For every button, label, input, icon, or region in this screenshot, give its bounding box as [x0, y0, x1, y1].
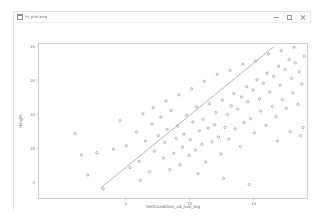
data-point — [208, 103, 210, 105]
data-point — [190, 88, 192, 90]
data-point — [175, 137, 177, 139]
data-point — [153, 150, 155, 152]
data-point — [228, 138, 230, 140]
data-point — [233, 92, 235, 94]
regression-line — [101, 47, 274, 188]
data-point — [139, 179, 141, 181]
data-point — [188, 154, 190, 156]
data-point — [266, 72, 268, 74]
data-point — [162, 157, 164, 159]
data-point — [142, 113, 144, 115]
y-axis-ticks: 510152025 — [30, 44, 38, 185]
minimize-icon — [274, 17, 279, 18]
data-point — [297, 103, 299, 105]
data-point — [205, 161, 207, 163]
data-point — [299, 134, 301, 136]
data-point — [246, 86, 248, 88]
data-point — [185, 114, 187, 116]
data-point — [112, 148, 114, 150]
data-point — [256, 79, 258, 81]
data-point — [183, 133, 185, 135]
data-point — [226, 113, 228, 115]
close-button[interactable] — [296, 12, 309, 22]
y-tick-label: 15 — [30, 112, 35, 117]
data-point — [302, 126, 304, 128]
maximize-icon — [287, 15, 292, 20]
data-point — [211, 141, 213, 143]
data-point — [172, 152, 174, 154]
data-point — [221, 99, 223, 101]
data-point — [243, 122, 245, 124]
data-point — [166, 128, 168, 130]
data-point — [74, 132, 76, 134]
data-point — [272, 75, 274, 77]
data-point — [164, 141, 166, 143]
y-tick-label: 20 — [30, 78, 35, 83]
data-point — [292, 92, 294, 94]
data-point — [129, 166, 131, 168]
scatter-plot: 510152025 51015 testCondition_vd_non_log… — [14, 23, 312, 210]
data-point — [253, 132, 255, 134]
data-point — [160, 116, 162, 118]
data-point — [198, 130, 200, 132]
data-point — [293, 46, 295, 48]
data-point — [289, 130, 291, 132]
data-point — [207, 127, 209, 129]
window-title-bar[interactable]: fit_plot.png — [14, 12, 310, 23]
data-point — [303, 55, 305, 57]
data-point — [237, 108, 239, 110]
data-point — [279, 84, 281, 86]
data-point — [258, 98, 260, 100]
data-point — [215, 111, 217, 113]
plot-window: fit_plot.png 510152025 51015 testConditi… — [13, 11, 311, 210]
data-point — [157, 134, 159, 136]
data-point — [181, 146, 183, 148]
data-point — [197, 173, 199, 175]
data-point — [178, 94, 180, 96]
data-point — [144, 140, 146, 142]
data-point — [240, 96, 242, 98]
data-point — [179, 164, 181, 166]
y-tick-label: 25 — [30, 44, 35, 49]
data-point — [216, 73, 218, 75]
data-point — [125, 145, 127, 147]
data-point — [135, 131, 137, 133]
data-point — [87, 174, 89, 176]
data-point — [96, 151, 98, 153]
y-tick-label: 10 — [30, 146, 35, 151]
data-point — [276, 140, 278, 142]
data-point — [196, 106, 198, 108]
data-point — [201, 143, 203, 145]
data-point — [288, 58, 290, 60]
window-title: fit_plot.png — [25, 15, 47, 20]
data-point — [169, 168, 171, 170]
data-point — [267, 53, 269, 55]
data-point — [281, 98, 283, 100]
data-point — [102, 187, 104, 189]
data-point — [189, 139, 191, 141]
data-point — [80, 154, 82, 156]
minimize-button[interactable] — [270, 12, 283, 22]
data-point — [229, 69, 231, 71]
data-point — [248, 183, 250, 185]
window-controls — [270, 12, 310, 22]
data-point — [301, 83, 303, 85]
data-point — [298, 71, 300, 73]
data-point — [224, 126, 226, 128]
y-tick-label: 5 — [33, 180, 36, 185]
data-point — [222, 177, 224, 179]
data-point — [260, 110, 262, 112]
data-point — [269, 91, 271, 93]
data-point — [230, 105, 232, 107]
data-point — [285, 107, 287, 109]
data-point — [280, 49, 282, 51]
data-point — [252, 89, 254, 91]
data-point — [239, 145, 241, 147]
x-tick-label: 15 — [251, 201, 256, 206]
data-point — [262, 82, 264, 84]
maximize-button[interactable] — [283, 12, 296, 22]
data-point — [278, 65, 280, 67]
data-point — [234, 128, 236, 130]
data-point — [138, 160, 140, 162]
y-axis-label: Height — [18, 114, 23, 128]
